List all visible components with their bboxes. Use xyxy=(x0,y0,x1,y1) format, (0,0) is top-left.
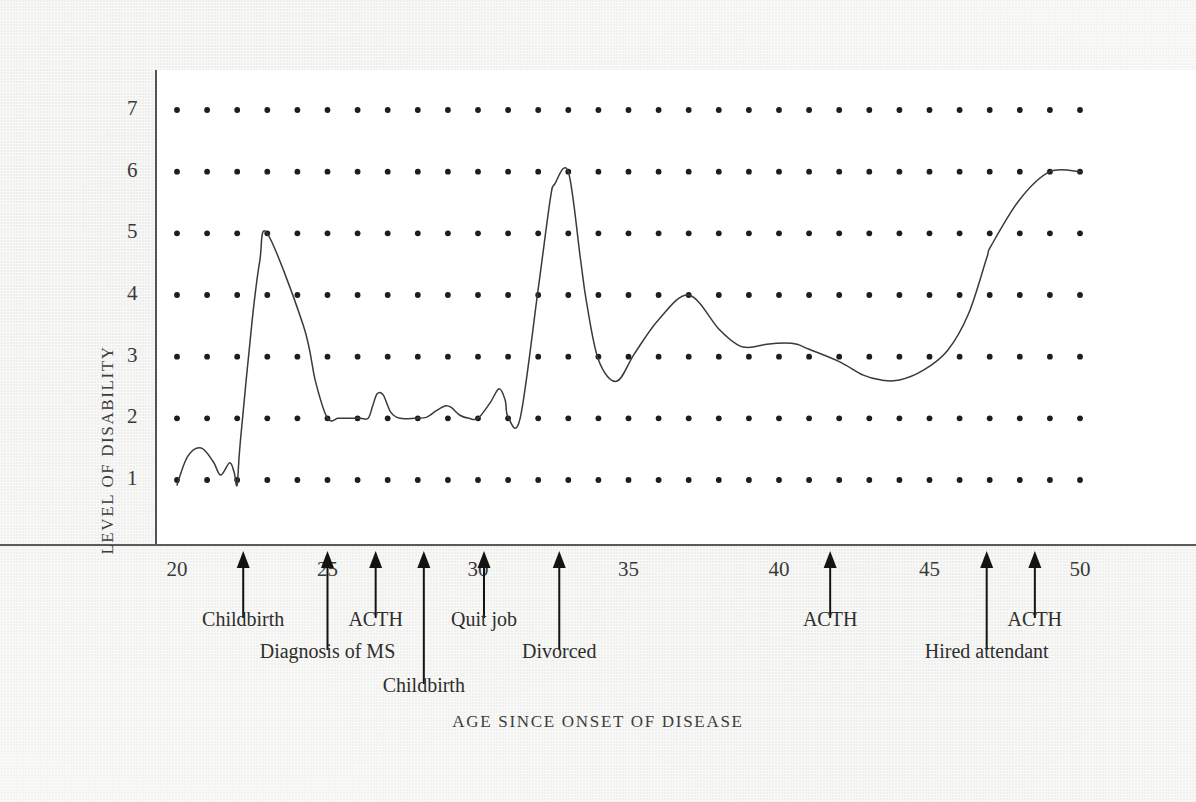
annotation-arrow xyxy=(417,551,430,684)
annotation-label: ACTH xyxy=(803,608,857,631)
annotation-label: Diagnosis of MS xyxy=(260,640,396,663)
annotation-arrow xyxy=(980,551,993,650)
annotation-label: Childbirth xyxy=(383,674,465,697)
annotation-label: Hired attendant xyxy=(925,640,1049,663)
annotation-arrow xyxy=(553,551,566,650)
annotation-label: Childbirth xyxy=(202,608,284,631)
annotation-arrow-layer xyxy=(0,0,1196,802)
annotation-label: ACTH xyxy=(1008,608,1062,631)
annotation-label: Divorced xyxy=(522,640,596,663)
chart-figure: 1234567 20253035404550 LEVEL OF DISABILI… xyxy=(0,0,1196,802)
annotation-label: ACTH xyxy=(348,608,402,631)
annotation-arrow xyxy=(321,551,334,650)
annotation-label: Quit job xyxy=(451,608,517,631)
